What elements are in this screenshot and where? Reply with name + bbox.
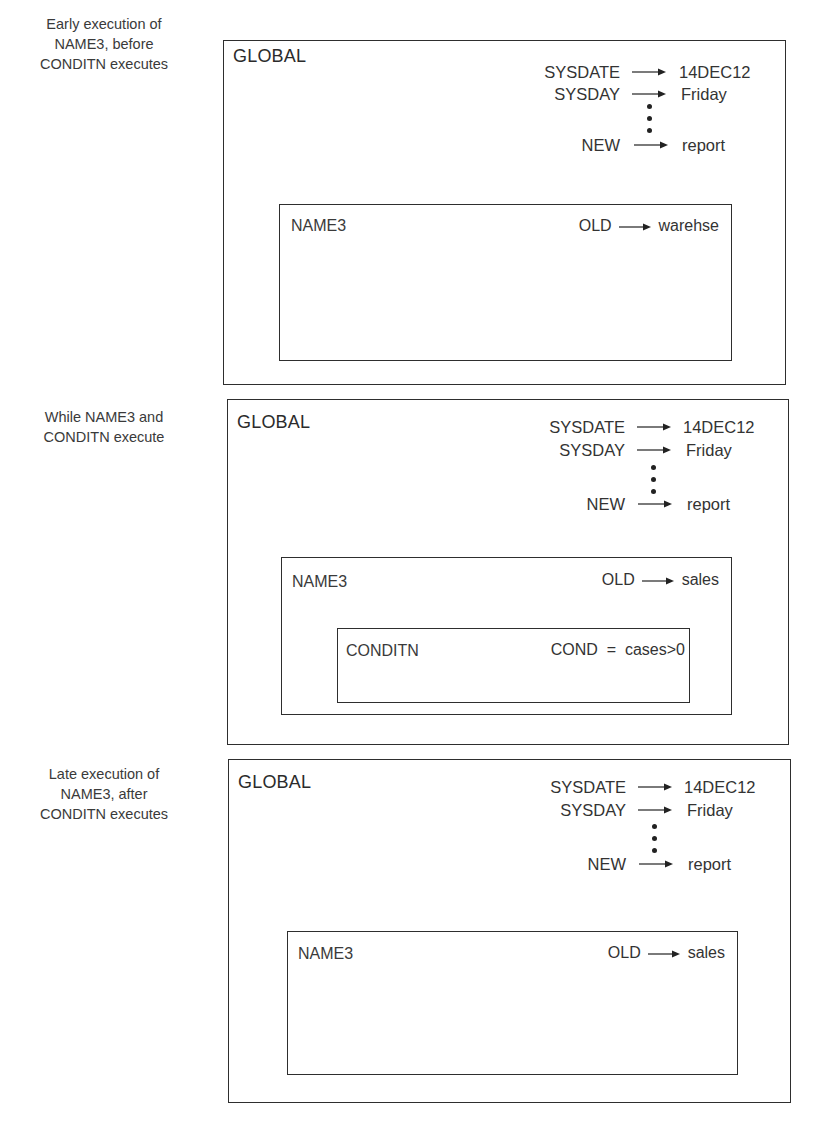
conditn-title: CONDITN	[346, 642, 419, 660]
name3-title: NAME3	[298, 945, 353, 963]
right-arrow-icon	[638, 777, 672, 797]
binding-sysday: SYSDAY Friday	[0, 84, 828, 104]
binding-old: OLD sales	[602, 570, 719, 590]
binding-sysdate: SYSDATE 14DEC12	[0, 417, 828, 437]
name3-title: NAME3	[292, 573, 347, 591]
binding-name: SYSDATE	[550, 777, 626, 797]
binding-value: Friday	[687, 800, 733, 820]
binding-new: NEW report	[0, 135, 828, 155]
right-arrow-icon	[642, 575, 674, 587]
right-arrow-icon	[634, 135, 668, 155]
binding-name: NEW	[582, 135, 621, 155]
binding-name: SYSDATE	[549, 417, 625, 437]
binding-name: SYSDATE	[544, 62, 620, 82]
binding-new: NEW report	[0, 854, 828, 874]
right-arrow-icon	[619, 221, 651, 233]
binding-old: OLD sales	[608, 943, 725, 963]
binding-sysdate: SYSDATE 14DEC12	[0, 62, 828, 82]
binding-name: NEW	[588, 854, 627, 874]
cond-assignment: COND = cases>0	[551, 640, 685, 660]
right-arrow-icon	[639, 854, 673, 874]
binding-value: 14DEC12	[683, 417, 755, 437]
binding-name: NEW	[587, 494, 626, 514]
binding-name: OLD	[608, 944, 641, 961]
binding-sysdate: SYSDATE 14DEC12	[0, 777, 828, 797]
caption-line: Early execution of	[0, 14, 208, 34]
caption-line: NAME3, before	[0, 34, 208, 54]
binding-value: report	[682, 135, 725, 155]
binding-new: NEW report	[0, 494, 828, 514]
right-arrow-icon	[638, 800, 672, 820]
binding-value: sales	[682, 571, 719, 588]
binding-old: OLD warehse	[579, 216, 719, 236]
name3-title: NAME3	[291, 217, 346, 235]
right-arrow-icon	[648, 948, 680, 960]
binding-value: 14DEC12	[684, 777, 756, 797]
binding-sysday: SYSDAY Friday	[0, 800, 828, 820]
right-arrow-icon	[632, 62, 666, 82]
binding-value: Friday	[686, 440, 732, 460]
right-arrow-icon	[637, 440, 671, 460]
binding-name: SYSDAY	[560, 800, 626, 820]
binding-value: Friday	[681, 84, 727, 104]
binding-value: 14DEC12	[679, 62, 751, 82]
binding-value: report	[687, 494, 730, 514]
conditn-scope-box: CONDITN COND = cases>0	[337, 628, 690, 703]
right-arrow-icon	[632, 84, 666, 104]
binding-name: SYSDAY	[554, 84, 620, 104]
right-arrow-icon	[638, 494, 672, 514]
binding-value: sales	[688, 944, 725, 961]
binding-name: OLD	[602, 571, 635, 588]
name3-scope-box: NAME3 OLD warehse	[279, 204, 732, 361]
binding-name: OLD	[579, 217, 612, 234]
right-arrow-icon	[637, 417, 671, 437]
binding-sysday: SYSDAY Friday	[0, 440, 828, 460]
binding-name: SYSDAY	[559, 440, 625, 460]
name3-scope-box: NAME3 OLD sales	[287, 931, 738, 1075]
binding-value: warehse	[659, 217, 719, 234]
binding-value: report	[688, 854, 731, 874]
